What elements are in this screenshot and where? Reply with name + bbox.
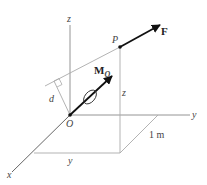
x-axis-label: x xyxy=(6,169,12,180)
z-axis-label: z xyxy=(66,13,71,24)
origin-point xyxy=(68,113,72,117)
distance-label: d xyxy=(49,93,55,104)
moment-diagram: z y x O P F MO d z y 1 m xyxy=(0,0,207,185)
height-label: z xyxy=(121,87,126,98)
moment-vector xyxy=(70,76,112,115)
y-dimension-label: y xyxy=(67,155,73,166)
x-axis xyxy=(12,115,70,172)
y-axis-label: y xyxy=(191,109,197,120)
point-p xyxy=(118,45,122,49)
force-vector xyxy=(120,25,160,47)
origin-label: O xyxy=(66,118,73,129)
moment-label: MO xyxy=(94,64,110,79)
force-label: F xyxy=(161,25,168,37)
x-dimension-label: 1 m xyxy=(149,129,165,140)
point-p-label: P xyxy=(111,34,118,45)
moment-arm-d xyxy=(54,81,70,115)
